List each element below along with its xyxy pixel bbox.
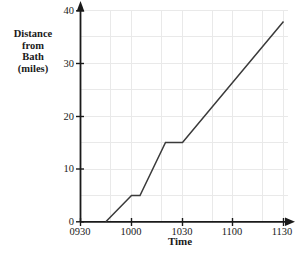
horizontal-gridlines: [80, 11, 288, 196]
x-tick-label-1030: 1030: [162, 226, 202, 237]
y-axis: [77, 1, 85, 222]
x-tick-label-1000: 1000: [111, 226, 151, 237]
x-tick-label-1100: 1100: [212, 226, 252, 237]
distance-time-chart: Distance from Bath (miles) Time 0 10 20 …: [0, 0, 300, 253]
journey-line: [106, 22, 284, 222]
y-tick-label-30: 30: [52, 58, 74, 69]
y-tick-label-10: 10: [52, 163, 74, 174]
y-tick-label-20: 20: [52, 111, 74, 122]
y-tick-label-40: 40: [52, 5, 74, 16]
x-axis-title: Time: [150, 236, 210, 248]
x-tick-label-1130: 1130: [262, 226, 300, 237]
x-tick-label-0930: 0930: [60, 226, 100, 237]
